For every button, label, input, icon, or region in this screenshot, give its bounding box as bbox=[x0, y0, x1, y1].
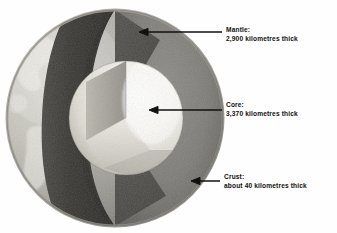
label-mantle: Mantle: 2,900 kilometres thick bbox=[226, 26, 298, 43]
label-mantle-title: Mantle: bbox=[226, 26, 298, 35]
globe-body bbox=[0, 6, 250, 230]
print-grain bbox=[7, 10, 223, 226]
label-crust-title: Crust: bbox=[224, 173, 307, 182]
label-crust-detail: about 40 kilometres thick bbox=[224, 182, 307, 191]
earth-cutaway-diagram: Mantle: 2,900 kilometres thick Core: 3,3… bbox=[0, 0, 337, 233]
label-core-title: Core: bbox=[226, 101, 298, 110]
label-crust: Crust: about 40 kilometres thick bbox=[224, 173, 307, 190]
label-core: Core: 3,370 kilometres thick bbox=[226, 101, 298, 118]
label-mantle-detail: 2,900 kilometres thick bbox=[226, 35, 298, 44]
label-core-detail: 3,370 kilometres thick bbox=[226, 110, 298, 119]
